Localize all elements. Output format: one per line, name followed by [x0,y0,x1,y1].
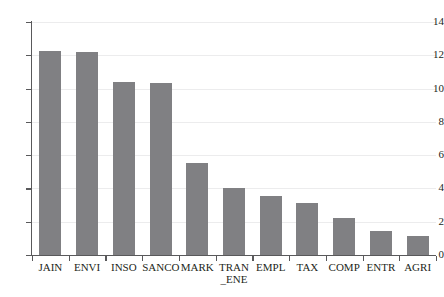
y-axis-tick-label: 2 [422,216,444,227]
y-axis-tick [26,122,32,123]
bar-chart: 02468101214JAINENVIINSOSANCOMARKTRAN _EN… [0,0,444,297]
x-axis-line [31,255,436,256]
y-axis-tick [26,55,32,56]
x-axis-category-label: MARK [179,262,216,274]
y-axis-tick-label: 6 [422,149,444,160]
x-axis-category-label: TRAN _ENE [216,262,253,285]
x-axis-tick [179,256,180,261]
x-axis-tick [69,256,70,261]
bar [76,52,98,255]
bar [296,203,318,255]
y-axis-tick-label: 0 [422,249,444,260]
y-axis-tick-label: 10 [422,83,444,94]
x-axis-tick [252,256,253,261]
x-axis-category-label: AGRI [399,262,436,274]
x-axis-category-label: TAX [289,262,326,274]
y-axis-tick [26,188,32,189]
y-axis-tick-label: 14 [422,16,444,27]
bar [113,82,135,255]
x-axis-tick [32,256,33,261]
x-axis-tick [363,256,364,261]
x-axis-category-label: EMPL [252,262,289,274]
y-axis-tick [26,22,32,23]
y-axis-tick [26,222,32,223]
y-axis-tick-label: 8 [422,116,444,127]
x-axis-category-label: ENVI [69,262,106,274]
bar [186,163,208,255]
bar [260,196,282,255]
x-axis-tick [216,256,217,261]
x-axis-category-label: COMP [326,262,363,274]
x-axis-category-label: ENTR [363,262,400,274]
bar [150,83,172,255]
x-axis-tick [105,256,106,261]
y-axis-tick [26,89,32,90]
x-axis-category-label: INSO [105,262,142,274]
bar [333,218,355,255]
x-axis-tick [142,256,143,261]
x-axis-tick [289,256,290,261]
x-axis-category-label: SANCO [142,262,179,274]
bar [39,51,61,255]
bar [223,188,245,255]
y-axis-tick [26,155,32,156]
gridline [32,22,436,23]
plot-area [32,22,436,255]
x-axis-category-label: JAIN [32,262,69,274]
y-axis-tick-label: 4 [422,182,444,193]
x-axis-tick [399,256,400,261]
x-axis-tick [326,256,327,261]
y-axis-tick-label: 12 [422,49,444,60]
bar [370,231,392,255]
x-axis-tick [436,256,437,261]
